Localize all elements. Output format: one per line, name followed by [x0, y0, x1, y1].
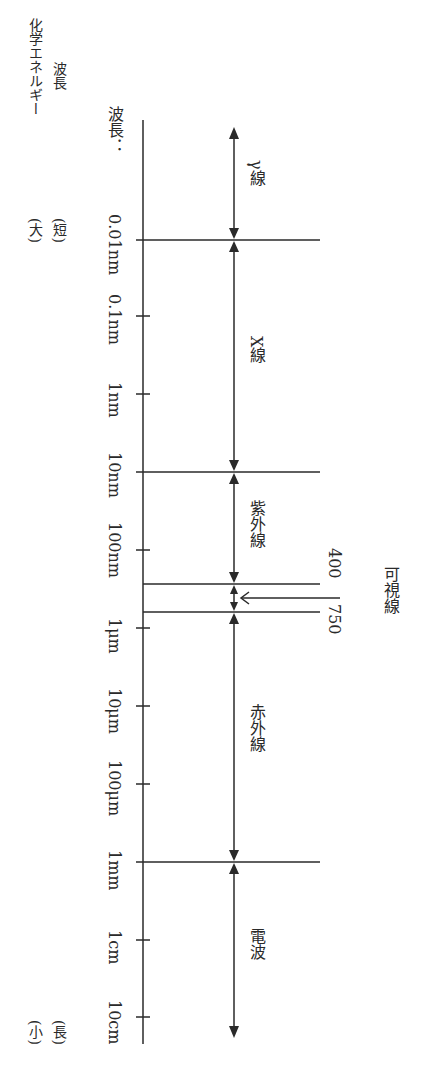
tick-label: 10cm [106, 1000, 122, 1045]
region-label-gamma: γ線 [248, 160, 264, 186]
legend-long: (長) [52, 1020, 66, 1045]
tick-label: 10nm [106, 452, 122, 498]
tick-label: 0.1nm [106, 294, 122, 345]
spectrum-diagram [0, 0, 439, 1091]
tick-label: 0.01nm [106, 214, 122, 275]
region-label-uv: 紫外線 [248, 500, 264, 548]
legend-short: (短) [52, 218, 66, 243]
legend-large: (大) [28, 218, 42, 243]
region-label-ir: 赤外線 [248, 704, 264, 752]
tick-label: 100μm [106, 760, 122, 816]
visible-lower-bound: 400 [326, 548, 342, 579]
tick-label: 1nm [106, 382, 122, 418]
legend-chemical-energy: 化学エネルギー [28, 18, 42, 116]
legend-wavelength: 波長 [52, 62, 66, 90]
region-label-xray: X線 [248, 336, 264, 363]
visible-label: 可視線 [382, 566, 398, 614]
tick-label: 1μm [106, 618, 122, 654]
axis-title: 波長： [106, 106, 122, 154]
region-label-radio: 電波 [248, 928, 264, 960]
tick-label: 1mm [106, 850, 122, 891]
tick-label: 100nm [106, 522, 122, 578]
tick-label: 10μm [106, 688, 122, 734]
visible-upper-bound: 750 [326, 604, 342, 635]
legend-small: (小) [28, 1020, 42, 1045]
tick-label: 1cm [106, 930, 122, 964]
